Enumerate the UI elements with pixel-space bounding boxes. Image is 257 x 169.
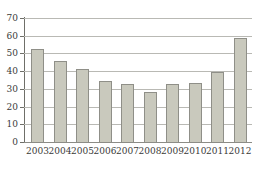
bar-2009[interactable] (166, 84, 179, 142)
bar-2010[interactable] (189, 83, 202, 142)
y-tick-label: 10 (7, 120, 18, 129)
y-tick-label: 60 (7, 31, 18, 40)
bar-2005[interactable] (76, 69, 89, 143)
bars-layer (24, 18, 252, 142)
bar-chart: 70 60 50 40 30 20 10 0 (0, 0, 257, 169)
x-tick-label-2011: 2011 (206, 146, 229, 157)
bar-2012[interactable] (234, 38, 247, 142)
bar-2006[interactable] (99, 81, 112, 142)
x-tick-label-2008: 2008 (139, 146, 162, 157)
y-tick-label: 20 (7, 102, 18, 111)
x-tick-label-2006: 2006 (94, 146, 117, 157)
bar-2007[interactable] (121, 84, 134, 142)
bar-2008[interactable] (144, 92, 157, 142)
x-tick-label-2012: 2012 (229, 146, 252, 157)
bar-2003[interactable] (31, 49, 44, 142)
bar-2004[interactable] (54, 61, 67, 142)
x-tick-label-2003: 2003 (26, 146, 49, 157)
y-tick-label: 70 (7, 14, 18, 23)
y-tick-label: 0 (12, 138, 18, 147)
bar-2011[interactable] (211, 72, 224, 142)
x-tick-label-2009: 2009 (161, 146, 184, 157)
x-tick-label-2004: 2004 (49, 146, 72, 157)
x-tick-label-2005: 2005 (71, 146, 94, 157)
gridline-baseline (24, 142, 252, 143)
y-tick-label: 30 (7, 84, 18, 93)
y-tick-label: 50 (7, 49, 18, 58)
y-tick-label: 40 (7, 67, 18, 76)
x-axis-labels: 2003 2004 2005 2006 2007 2008 2009 2010 … (24, 146, 252, 164)
y-axis-labels: 70 60 50 40 30 20 10 0 (0, 0, 18, 169)
plot-area (24, 18, 252, 142)
x-tick-label-2010: 2010 (184, 146, 207, 157)
x-tick-label-2007: 2007 (116, 146, 139, 157)
